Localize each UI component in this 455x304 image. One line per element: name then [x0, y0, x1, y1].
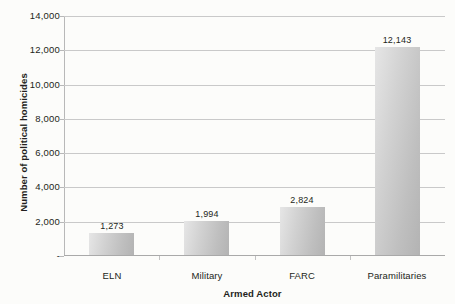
y-axis-tick-label: 2,000	[8, 217, 60, 227]
bar-value-label: 1,994	[167, 209, 247, 219]
y-axis-tick-mark	[60, 256, 64, 257]
x-axis-category-label: FARC	[252, 270, 352, 281]
bar-paramilitaries	[375, 47, 420, 255]
x-axis-tick-mark	[255, 256, 256, 260]
x-axis-title: Armed Actor	[60, 288, 445, 299]
y-axis-tick-label: 6,000	[8, 148, 60, 158]
y-axis-tick-mark	[60, 187, 64, 188]
bar-value-label: 12,143	[357, 35, 437, 45]
x-axis-tick-mark	[350, 256, 351, 260]
y-axis-tick-mark	[60, 50, 64, 51]
y-axis-tick-mark	[60, 119, 64, 120]
plot-area: 1,2731,9942,82412,143	[64, 16, 445, 256]
y-axis-tick-labels: -2,0004,0006,0008,00010,00012,00014,000	[8, 0, 60, 304]
y-axis-tick-label: 8,000	[8, 114, 60, 124]
x-axis-category-label: ELN	[62, 270, 162, 281]
y-axis-tick-label: 14,000	[8, 11, 60, 21]
bar-military	[184, 221, 229, 255]
chart-image: Number of political homicides -2,0004,00…	[0, 0, 455, 304]
bar-value-label: 1,273	[72, 221, 152, 231]
gridline	[64, 16, 445, 17]
x-axis-category-label: Military	[157, 270, 257, 281]
y-axis-tick-mark	[60, 85, 64, 86]
y-axis-tick-label: 10,000	[8, 80, 60, 90]
y-axis-tick-mark	[60, 16, 64, 17]
x-axis-category-label: Paramilitaries	[347, 270, 447, 281]
bar-farc	[280, 207, 325, 255]
y-axis-tick-mark	[60, 222, 64, 223]
y-axis-line	[64, 16, 65, 256]
bar-value-label: 2,824	[262, 195, 342, 205]
y-axis-tick-label: -	[8, 251, 60, 261]
bar-eln	[89, 233, 134, 255]
y-axis-tick-label: 12,000	[8, 45, 60, 55]
x-axis-tick-mark	[159, 256, 160, 260]
y-axis-tick-mark	[60, 153, 64, 154]
y-axis-tick-label: 4,000	[8, 182, 60, 192]
